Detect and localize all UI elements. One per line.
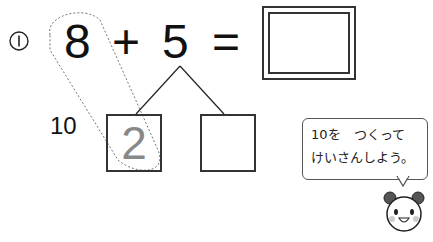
hint-bubble: 10を つくって けいさんしよう。 bbox=[302, 118, 428, 180]
decomposition-value-1: 2 bbox=[108, 116, 160, 170]
decomposition-box-2[interactable] bbox=[200, 114, 256, 172]
decomposition-box-1[interactable]: 2 bbox=[106, 114, 162, 172]
panda-mascot-icon bbox=[380, 188, 428, 236]
hint-line-1: 10を つくって bbox=[311, 123, 419, 146]
hint-line-2: けいさんしよう。 bbox=[311, 146, 419, 169]
bubble-tail bbox=[396, 176, 410, 188]
ten-label: 10 bbox=[50, 112, 77, 140]
